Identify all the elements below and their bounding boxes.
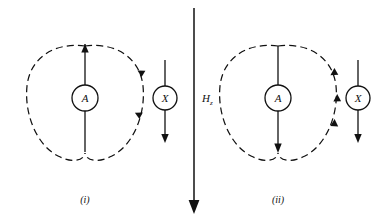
applied-field-arrowhead [189,200,200,214]
panel-i-caption: (i) [80,194,90,206]
panel-i-lobe-arrowhead-lower [135,112,143,119]
panel-ii-coil-label: A [274,92,282,104]
applied-field-group: Hz [189,8,213,214]
field-diagram-svg: A X (i) Hz [0,0,389,221]
panel-ii-specimen-arrowhead-down [354,134,361,143]
applied-field-label: Hz [201,92,213,107]
applied-field-label-subscript: z [209,99,213,107]
figure-canvas: A X (i) Hz [0,0,389,221]
panel-ii-caption: (ii) [272,194,285,206]
panel-i-specimen-arrowhead-down [161,134,168,143]
panel-ii-coil-arrowhead-down [274,144,281,154]
panel-ii-specimen-label: X [354,92,363,104]
panel-ii: A X (ii) [220,45,370,206]
panel-i-lobe-arrowhead-upper [138,71,146,78]
panel-i: A X (i) [27,44,177,206]
panel-i-specimen-label: X [161,92,170,104]
panel-i-coil-label: A [81,92,89,104]
panel-ii-lobe-arrowhead-middle [333,94,341,101]
